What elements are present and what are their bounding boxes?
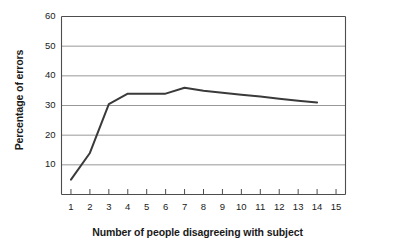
x-tick-label: 6 <box>156 201 176 212</box>
y-tick-label: 30 <box>32 99 56 110</box>
x-tick-label: 15 <box>326 201 346 212</box>
x-tick-label: 13 <box>288 201 308 212</box>
data-series-line <box>71 88 317 180</box>
x-tick-label: 12 <box>269 201 289 212</box>
x-tick-label: 10 <box>231 201 251 212</box>
line-chart: Percentage of errors Number of people di… <box>0 0 395 249</box>
x-tick-label: 1 <box>61 201 81 212</box>
x-tick-label: 5 <box>137 201 157 212</box>
x-axis-title: Number of people disagreeing with subjec… <box>0 226 395 238</box>
y-tick-label: 40 <box>32 69 56 80</box>
x-tick-label: 9 <box>212 201 232 212</box>
y-tick-label: 60 <box>32 10 56 21</box>
x-tick-label: 2 <box>80 201 100 212</box>
y-tick-label: 10 <box>32 158 56 169</box>
y-axis-title: Percentage of errors <box>8 0 30 200</box>
x-tick-label: 11 <box>250 201 270 212</box>
x-tick-label: 14 <box>307 201 327 212</box>
plot-area <box>0 0 395 249</box>
y-tick-label: 50 <box>32 40 56 51</box>
x-tick-label: 3 <box>99 201 119 212</box>
x-tick-label: 7 <box>175 201 195 212</box>
y-axis-title-text: Percentage of errors <box>13 50 25 151</box>
x-tick-label: 8 <box>194 201 214 212</box>
y-tick-label: 20 <box>32 129 56 140</box>
x-tick-label: 4 <box>118 201 138 212</box>
